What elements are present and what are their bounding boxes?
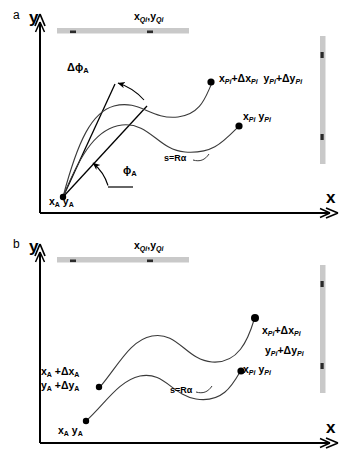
panel-a-obstacle-label: xQi,yQi <box>134 11 163 23</box>
panel-a-arc-length-label: s=Rα <box>164 154 186 163</box>
panel-b-letter: b <box>13 238 20 250</box>
panel-b-start-perturbed-label-line2: yA +ΔyA <box>41 380 79 392</box>
panel-b-obstacle-bar-top <box>57 257 189 263</box>
panel-b-start-perturbed-label-line1: xA +ΔxA <box>41 366 79 378</box>
panel-b-endpoint-perturbed-label-line1: xPi+ΔxPi <box>262 325 301 337</box>
figure-container: a y x xQi,yQi ΔϕA ϕA s=Rα xA yA xPi+ΔxPi… <box>0 0 358 469</box>
panel-a-x-axis-label: x <box>326 189 335 206</box>
panel-b-trajectory-perturbed <box>100 320 254 387</box>
panel-a-obstacle-tick <box>321 52 324 58</box>
panel-b-arc-label-leader <box>196 386 212 393</box>
panel-b-endpoint-nominal-label: xPi yPi <box>243 364 271 376</box>
panel-b-start-marker <box>83 418 89 424</box>
panel-a-delta-phi-angle-arc <box>118 83 144 100</box>
panel-a-heading-line <box>63 106 147 197</box>
figure-vector-layer <box>0 0 358 469</box>
panel-b-obstacle-tick <box>321 281 324 287</box>
panel-a-trajectory-nominal <box>63 125 238 197</box>
panel-a-obstacle-bar-top <box>57 28 189 34</box>
panel-b-y-axis-label: y <box>29 238 38 255</box>
panel-b-obstacle-tick <box>147 260 153 263</box>
panel-b-obstacle-tick <box>321 363 324 369</box>
panel-b-obstacle-label: xQi,yQi <box>134 240 163 252</box>
panel-b-endpoint-perturbed-label-line2: yPi+ΔyPi <box>265 345 304 357</box>
panel-a-obstacle-tick <box>321 134 324 140</box>
panel-b-start-pose-label: xA yA <box>58 425 83 437</box>
panel-a-obstacle-tick <box>147 31 153 34</box>
panel-a-phi-angle-arc <box>93 163 108 186</box>
panel-b-arc-length-label: s=Rα <box>170 386 192 395</box>
panel-a-start-pose-label: xA yA <box>49 196 74 208</box>
panel-a-arc-label-leader <box>193 154 209 161</box>
panel-a-endpoint-perturbed-label: xPi+ΔxPi yPi+ΔyPi <box>219 73 302 85</box>
panel-a-graphics <box>35 14 338 218</box>
panel-a-letter: a <box>13 9 20 21</box>
panel-a-endpoint-perturbed-marker <box>207 78 214 85</box>
panel-a-trajectory-perturbed <box>63 83 212 197</box>
panel-b-x-axis-label: x <box>326 419 335 436</box>
panel-b-obstacle-tick <box>70 260 76 263</box>
panel-a-y-axis-label: y <box>29 9 38 26</box>
panel-a-phi-label: ϕA <box>123 165 137 178</box>
panel-b-endpoint-perturbed-marker <box>251 314 259 322</box>
panel-a-obstacle-tick <box>70 31 76 34</box>
panel-a-endpoint-nominal-marker <box>235 122 242 129</box>
panel-a-endpoint-nominal-label: xPi yPi <box>243 111 271 123</box>
panel-b-start-perturbed-marker <box>96 384 102 390</box>
panel-a-delta-phi-label: ΔϕA <box>67 62 89 75</box>
figure-caption-faint <box>0 455 358 469</box>
panel-b-trajectory-nominal <box>86 372 240 421</box>
